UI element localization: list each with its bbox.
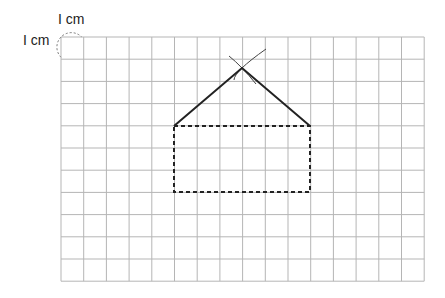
left-unit-label: I cm: [23, 33, 49, 47]
top-unit-label: I cm: [58, 12, 84, 26]
square-grid: [61, 37, 424, 281]
house-roof-lines: [174, 68, 310, 126]
compass-construction-arcs: [229, 49, 266, 84]
house-body-dashed-rectangle: [174, 126, 310, 192]
grid-diagram: [0, 0, 445, 298]
